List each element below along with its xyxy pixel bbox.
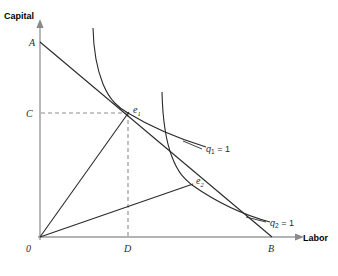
expansion-ray-through-e1 xyxy=(40,112,129,237)
isoquant-q1-label-rest: = 1 xyxy=(215,144,230,154)
isocost-line-ab xyxy=(40,42,272,237)
expansion-rays-group xyxy=(40,112,193,237)
isoquant-q1-label: q1 = 1 xyxy=(206,144,230,155)
isoquant-q2-label-rest: = 1 xyxy=(279,218,294,228)
point-label-a: A xyxy=(28,37,36,48)
capital-axis-title: Capital xyxy=(4,11,34,21)
point-label-e2-subscript: 2 xyxy=(200,181,204,188)
isoquant-q2-curve xyxy=(162,92,270,222)
origin-label: 0 xyxy=(26,243,31,254)
labor-axis-title: Labor xyxy=(303,233,328,243)
isoquant-q2-label: q2 = 1 xyxy=(270,218,294,229)
capital-axis-arrow-icon xyxy=(36,19,43,28)
point-label-e1: e1 xyxy=(133,104,141,117)
point-label-e2: e2 xyxy=(196,175,204,188)
isoquant-isocost-figure: Capital Labor 0 A C D B e1 e2 q1 = 1 q2 … xyxy=(0,0,338,276)
point-label-b: B xyxy=(268,243,274,254)
point-label-e1-subscript: 1 xyxy=(137,110,140,117)
isoquant-q1-curve xyxy=(93,28,206,147)
axes-group xyxy=(36,19,304,241)
point-label-d: D xyxy=(123,243,132,254)
expansion-ray-through-e2 xyxy=(40,184,193,237)
point-label-c: C xyxy=(26,108,33,119)
